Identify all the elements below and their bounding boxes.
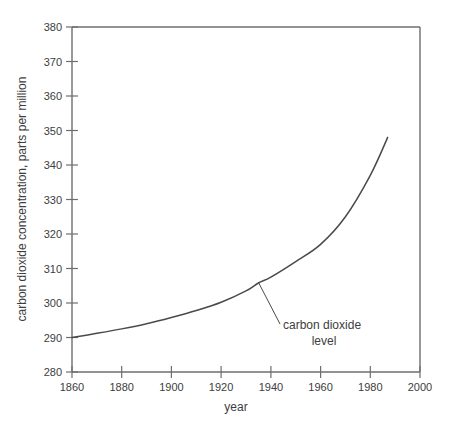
y-tick-label-340: 340 [44,159,62,171]
y-tick-label-330: 330 [44,194,62,206]
x-tick-label-2000: 2000 [408,381,432,393]
y-tick-label-360: 360 [44,90,62,102]
y-tick-label-310: 310 [44,263,62,275]
y-tick-label-370: 370 [44,56,62,68]
x-tick-label-1900: 1900 [159,381,183,393]
y-tick-label-290: 290 [44,332,62,344]
y-tick-label-380: 380 [44,21,62,33]
co2-line-chart-figure: 280 290 300 310 320 330 340 350 360 370 … [0,0,451,432]
x-tick-label-1980: 1980 [358,381,382,393]
x-tick-label-1960: 1960 [308,381,332,393]
y-tick-label-280: 280 [44,366,62,378]
x-tick-label-1880: 1880 [109,381,133,393]
chart-canvas: 280 290 300 310 320 330 340 350 360 370 … [0,0,451,432]
x-axis-title: year [224,400,247,414]
x-tick-label-1920: 1920 [209,381,233,393]
chart-background [0,0,451,432]
x-tick-label-1940: 1940 [259,381,283,393]
y-axis-title: carbon dioxide concentration, parts per … [15,77,29,322]
y-tick-label-350: 350 [44,125,62,137]
y-tick-label-300: 300 [44,297,62,309]
annotation-label-line1: carbon dioxide [283,318,361,332]
y-tick-label-320: 320 [44,228,62,240]
x-tick-label-1860: 1860 [60,381,84,393]
annotation-label-line2: level [312,334,337,348]
